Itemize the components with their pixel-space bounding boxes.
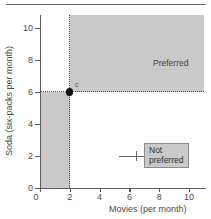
bundle-point-label: c [75,81,79,88]
bundle-point-c [66,88,74,96]
y-ticklabel-4: 4 [28,119,33,129]
x-ticklabel-2: 2 [67,192,72,202]
y-ticklabel-10: 10 [23,23,33,33]
plot-area: c Preferred Not preferred [40,15,204,188]
x-tick-0 [40,188,41,192]
x-ticklabel-8: 8 [157,192,162,202]
x-ticklabel-0: 0 [33,192,38,202]
not-preferred-line-1: Not [149,145,184,155]
page-rule [6,4,206,5]
x-ticklabel-6: 6 [127,192,132,202]
y-tick-8 [35,60,40,61]
y-tick-6 [35,92,40,93]
y-tick-4 [35,124,40,125]
x-axis [40,188,206,189]
x-ticklabel-10: 10 [184,192,194,202]
callout-leader-tick [136,151,137,161]
preferred-label: Preferred [153,58,188,68]
x-axis-label: Movies (per month) [109,204,187,214]
y-axis-label: Soda (six-packs per month) [4,36,14,166]
y-ticklabel-2: 2 [28,151,33,161]
chart-figure: c Preferred Not preferred 0 2 4 6 8 10 0… [0,0,211,219]
not-preferred-callout: Not preferred [144,143,189,168]
x-ticklabel-4: 4 [97,192,102,202]
not-preferred-region [40,92,70,188]
callout-leader-line [119,156,144,157]
y-ticklabel-8: 8 [28,55,33,65]
y-tick-2 [35,156,40,157]
preferred-region [70,15,204,92]
y-axis [40,15,41,189]
y-tick-0 [35,188,40,189]
vertical-reference-line [69,15,70,188]
y-ticklabel-6: 6 [28,87,33,97]
y-tick-10 [35,28,40,29]
y-ticklabel-0: 0 [28,183,33,193]
not-preferred-line-2: preferred [149,155,184,165]
horizontal-reference-line [40,91,204,92]
